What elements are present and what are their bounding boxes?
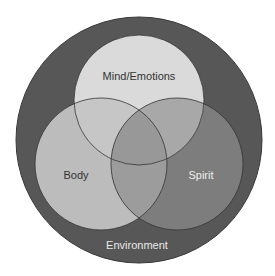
environment-label: Environment [106, 239, 168, 251]
spirit-label: Spirit [188, 169, 213, 181]
mind-emotions-label: Mind/Emotions [103, 70, 176, 82]
venn-diagram [0, 0, 275, 276]
body-label: Body [63, 169, 88, 181]
